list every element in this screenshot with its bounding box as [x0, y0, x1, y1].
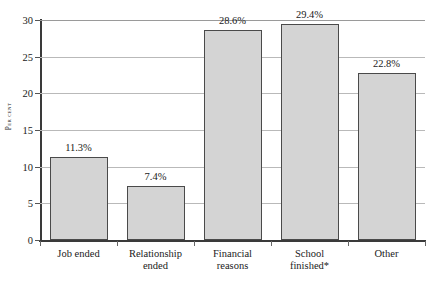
y-tick-5 — [35, 203, 40, 204]
y-tick-label-30: 30 — [23, 15, 34, 26]
x-axis-line — [39, 240, 426, 242]
y-tick-25 — [35, 57, 40, 58]
y-tick-20 — [35, 93, 40, 94]
y-tick-label-25: 25 — [23, 51, 34, 62]
y-tick-30 — [35, 20, 40, 21]
y-tick-label-15: 15 — [23, 125, 34, 136]
chart-title-remnant — [38, 0, 368, 1]
y-tick-15 — [35, 130, 40, 131]
bar-value-label-4: 22.8% — [373, 58, 400, 69]
bar-chart-figure: Per cent 05101520253011.3%7.4%28.6%29.4%… — [0, 0, 430, 281]
x-category-label-4: Other — [375, 248, 399, 260]
y-axis-title: Per cent — [4, 87, 13, 147]
x-tick-4 — [348, 241, 349, 246]
y-tick-label-5: 5 — [28, 198, 33, 209]
y-tick-label-0: 0 — [28, 235, 33, 246]
x-category-label-1: Relationshipended — [129, 248, 182, 272]
bar-value-label-1: 7.4% — [145, 171, 167, 182]
x-category-label-2: Financialreasons — [213, 248, 252, 272]
bar-value-label-0: 11.3% — [65, 142, 92, 153]
bar-value-label-2: 28.6% — [219, 15, 246, 26]
plot-area: 05101520253011.3%7.4%28.6%29.4%22.8% — [40, 20, 425, 240]
bar-4[interactable] — [358, 73, 416, 240]
bar-0[interactable] — [50, 157, 108, 240]
x-tick-5 — [425, 241, 426, 246]
y-tick-10 — [35, 167, 40, 168]
y-tick-label-20: 20 — [23, 88, 34, 99]
bar-2[interactable] — [204, 30, 262, 240]
bar-value-label-3: 29.4% — [296, 9, 323, 20]
x-category-label-3: Schoolfinished* — [290, 248, 329, 272]
x-tick-2 — [194, 241, 195, 246]
x-tick-3 — [271, 241, 272, 246]
bar-3[interactable] — [281, 24, 339, 240]
x-tick-0 — [40, 241, 41, 246]
x-tick-1 — [117, 241, 118, 246]
y-tick-label-10: 10 — [23, 161, 34, 172]
bar-1[interactable] — [127, 186, 185, 240]
x-category-label-0: Job ended — [57, 248, 99, 260]
